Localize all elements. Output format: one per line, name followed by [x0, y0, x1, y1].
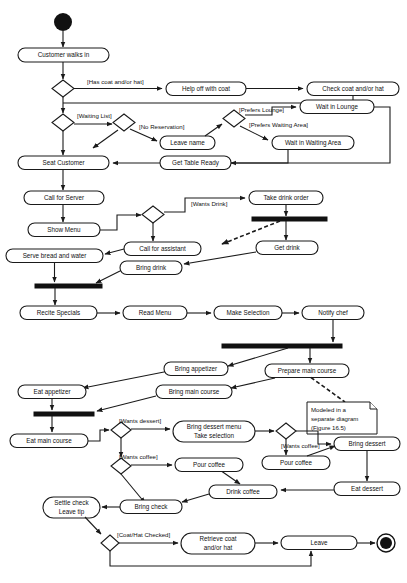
note-fold-corner — [370, 402, 377, 409]
initial-node — [54, 13, 72, 31]
action-drink-coffee-label: Drink coffee — [226, 488, 260, 495]
action-prepare-main-course-label: Prepare main course — [278, 367, 337, 375]
guard-wants-coffee-right: [Wants coffee] — [281, 442, 320, 449]
action-recite-specials-label: Recite Specials — [37, 309, 80, 317]
action-read-menu-label: Read Menu — [139, 309, 172, 316]
action-bring-appetizer-label: Bring appetizer — [175, 365, 217, 373]
join-bar-main-course — [34, 412, 94, 416]
flow-preparemain-to-note-dashed — [311, 378, 345, 403]
action-get-table-ready-label: Get Table Ready — [172, 159, 220, 167]
flow-preparemain-to-bringmain — [231, 378, 275, 388]
guard-coat-hat-checked: [Coat/Hat Checked] — [117, 531, 170, 538]
flow-bringappetizer-to-eatappetizer — [83, 372, 164, 388]
flow-decision3-to-seatcustomer — [93, 130, 118, 148]
decision-wants-coffee-right — [276, 423, 296, 439]
action-bring-dessert-menu-label-2: Take selection — [194, 432, 234, 439]
action-call-for-assistant-label: Call for assistant — [139, 245, 186, 252]
action-serve-bread-and-water-label: Serve bread and water — [23, 252, 87, 259]
action-eat-main-course-label: Eat main course — [26, 437, 72, 444]
action-bring-dessert-menu-label-1: Bring dessert menu — [187, 423, 242, 431]
action-retrieve-coat-label-2: and/or hat — [204, 544, 233, 551]
action-leave-name-label: Leave name — [170, 139, 205, 146]
action-wait-in-waiting-area-label: Wait in Waiting Area — [285, 139, 342, 147]
decision-waiting-list — [52, 114, 74, 131]
decision-wants-drink — [142, 206, 164, 223]
flow-waitingarea-to-seat-line — [231, 150, 288, 164]
decision-no-reservation — [113, 114, 135, 131]
action-settle-check-label-1: Settle check — [54, 499, 89, 506]
action-pour-coffee-right-label: Pour coffee — [280, 459, 313, 466]
decision-wants-dessert — [111, 422, 131, 438]
action-bring-check-label: Bring check — [135, 503, 169, 511]
note-line-2: separate diagram — [311, 415, 358, 422]
flow-decision3-to-leavename — [130, 129, 157, 141]
guard-no-reservation: [No Reservation] — [139, 123, 185, 130]
flow-drinkcoffee-to-bringcheck — [182, 494, 209, 502]
action-bring-drink-label: Bring drink — [136, 264, 167, 272]
flow-bringmain-to-join4 — [97, 396, 156, 411]
action-settle-check-label-2: Leave tip — [59, 508, 85, 516]
guard-wants-drink: [Wants Drink] — [191, 200, 228, 207]
note-line-1: Modeled in a — [311, 406, 347, 413]
action-make-selection-label: Make Selection — [226, 309, 270, 316]
flow-settlecheck-to-decision-coat — [85, 517, 101, 534]
fork-bar-course — [222, 344, 342, 348]
action-customer-walks-in-label: Customer walks in — [38, 51, 90, 58]
flow-callassistant-to-servebread — [105, 249, 124, 254]
action-eat-dessert-label: Eat dessert — [351, 485, 383, 492]
action-leave-label: Leave — [310, 539, 328, 546]
note-line-3: (Figure 16.5) — [311, 424, 346, 431]
action-bring-dessert-label: Bring dessert — [348, 440, 385, 448]
flow-showmenu-to-decision-drink — [100, 215, 141, 230]
action-retrieve-coat-label-1: Retrieve coat — [199, 535, 236, 542]
flow-eatmain-to-decision-dessert — [88, 430, 109, 441]
flow-bringdrink-to-join — [96, 271, 120, 283]
join-bar-drinks — [35, 284, 102, 288]
action-notify-chef-label: Notify chef — [318, 309, 348, 317]
action-bring-main-course-label: Bring main course — [169, 388, 220, 396]
guard-wants-dessert: [Wants dessert] — [119, 417, 161, 424]
action-help-off-with-coat-label: Help off with coat — [182, 85, 230, 93]
action-wait-in-lounge-label: Wait in Lounge — [316, 103, 358, 111]
guard-wants-coffee-left: [Wants coffee] — [119, 453, 158, 460]
guard-waiting-list: [Waiting List] — [77, 112, 112, 119]
guard-prefers-waiting-area: [Prefers Waiting Area] — [249, 121, 308, 128]
uml-activity-diagram: Customer walks in [Has coat and/or hat] … — [0, 0, 407, 583]
decision-has-coat — [52, 80, 74, 97]
flow-decision4-to-waitingarea — [240, 126, 268, 140]
action-call-for-server-label: Call for Server — [44, 194, 84, 201]
action-take-drink-order-label: Take drink order — [263, 194, 308, 201]
flow-decision-coffee-left-to-bringcheck — [121, 474, 145, 503]
action-check-coat-label: Check coat and/or hat — [322, 85, 384, 92]
action-seat-customer-label: Seat Customer — [43, 159, 85, 166]
flow-leavename-to-decision4 — [205, 124, 222, 136]
flow-fork3-to-bringappetizer — [228, 348, 288, 366]
decision-wants-coffee-left — [111, 458, 131, 474]
guard-has-coat: [Has coat and/or hat] — [87, 78, 144, 85]
final-node-inner — [380, 537, 392, 549]
action-show-menu-label: Show Menu — [47, 226, 81, 233]
action-get-drink-label: Get drink — [274, 244, 300, 251]
action-eat-appetizer-label: Eat appetizer — [33, 388, 70, 396]
activity-diagram-canvas: Customer walks in [Has coat and/or hat] … — [0, 0, 407, 583]
flow-pourcoffee-left-to-drinkcoffee — [222, 472, 240, 485]
fork-bar-drink — [252, 217, 327, 221]
action-pour-coffee-left-label: Pour coffee — [193, 461, 226, 468]
